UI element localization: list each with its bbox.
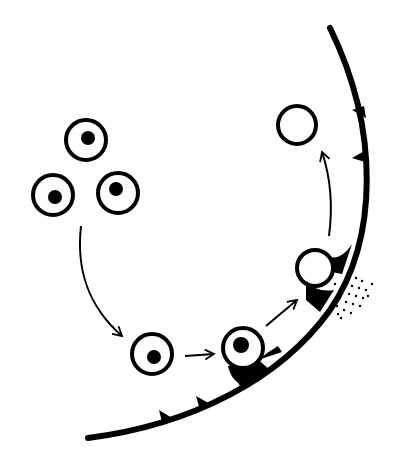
arrow-icon bbox=[322, 152, 331, 236]
diagram-canvas bbox=[0, 0, 397, 461]
adhering-cell bbox=[223, 328, 263, 368]
arrow-icon bbox=[80, 226, 122, 336]
arrow-icon bbox=[266, 300, 297, 326]
leukocyte-icon bbox=[33, 175, 73, 215]
transmigrating-cell bbox=[297, 250, 333, 286]
extravasation-diagram bbox=[0, 0, 397, 461]
circulating-cell bbox=[132, 334, 172, 374]
vessel-wall bbox=[88, 28, 368, 438]
extravasated-cell bbox=[278, 106, 316, 144]
leukocyte-icon bbox=[66, 120, 106, 160]
cell-cluster bbox=[33, 120, 138, 215]
receptor-icon bbox=[352, 150, 368, 163]
arrow-icon bbox=[185, 354, 214, 356]
leukocyte-icon bbox=[98, 173, 138, 213]
